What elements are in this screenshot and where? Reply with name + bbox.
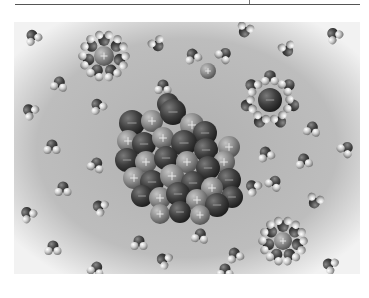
dissolution-illustration xyxy=(14,22,360,274)
anion xyxy=(258,88,282,112)
tick-mark xyxy=(249,0,250,4)
cation xyxy=(274,232,292,250)
anion xyxy=(169,201,191,223)
cation xyxy=(190,205,210,225)
cation xyxy=(94,46,114,66)
cation xyxy=(152,127,174,149)
top-rule xyxy=(15,4,360,5)
cation xyxy=(150,204,170,224)
cation xyxy=(200,63,216,79)
illustration-canvas xyxy=(14,22,360,274)
